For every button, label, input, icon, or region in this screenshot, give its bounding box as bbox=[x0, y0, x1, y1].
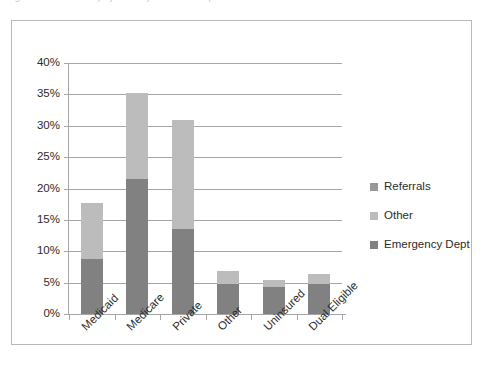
bar-segment bbox=[172, 120, 194, 229]
plot-area: 0%5%10%15%20%25%30%35%40% MedicaidMedica… bbox=[69, 63, 342, 314]
x-axis-tick bbox=[115, 314, 116, 320]
gridline bbox=[69, 157, 342, 158]
bar-segment bbox=[263, 280, 285, 287]
y-axis-tick bbox=[64, 251, 69, 252]
gridline bbox=[69, 220, 342, 221]
chart-legend: ReferralsOtherEmergency Dept bbox=[370, 181, 484, 268]
y-axis-tick bbox=[64, 220, 69, 221]
y-axis-label: 30% bbox=[37, 120, 60, 132]
gridline bbox=[69, 94, 342, 95]
y-axis-label: 25% bbox=[37, 151, 60, 163]
legend-item[interactable]: Other bbox=[370, 210, 484, 222]
x-axis-tick bbox=[342, 314, 343, 320]
x-axis-tick bbox=[297, 314, 298, 320]
y-axis-tick bbox=[64, 189, 69, 190]
legend-label: Referrals bbox=[384, 181, 431, 193]
y-axis-label: 40% bbox=[37, 57, 60, 69]
bar-segment bbox=[217, 271, 239, 284]
y-axis-tick bbox=[64, 63, 69, 64]
legend-item[interactable]: Referrals bbox=[370, 181, 484, 193]
figure-caption-strip: Figure 1. Source of payment by source of… bbox=[0, 0, 484, 11]
y-axis-label: 20% bbox=[37, 183, 60, 195]
legend-swatch-icon bbox=[370, 183, 378, 191]
bar-segment bbox=[126, 93, 148, 180]
y-axis-label: 10% bbox=[37, 246, 60, 258]
legend-swatch-icon bbox=[370, 241, 378, 249]
bar-segment bbox=[126, 179, 148, 314]
gridline bbox=[69, 63, 342, 64]
y-axis-label: 15% bbox=[37, 214, 60, 226]
legend-item[interactable]: Emergency Dept bbox=[370, 239, 484, 251]
gridline bbox=[69, 251, 342, 252]
y-axis-tick bbox=[64, 126, 69, 127]
y-axis-label: 35% bbox=[37, 89, 60, 101]
gridline bbox=[69, 283, 342, 284]
gridline bbox=[69, 189, 342, 190]
bar-segment bbox=[81, 203, 103, 259]
chart-frame: 0%5%10%15%20%25%30%35%40% MedicaidMedica… bbox=[11, 20, 472, 345]
legend-label: Other bbox=[384, 210, 413, 222]
y-axis-tick bbox=[64, 283, 69, 284]
legend-swatch-icon bbox=[370, 212, 378, 220]
y-axis-tick bbox=[64, 94, 69, 95]
y-axis-label: 0% bbox=[43, 308, 60, 320]
x-axis-tick bbox=[160, 314, 161, 320]
legend-label: Emergency Dept bbox=[384, 239, 470, 251]
x-axis-tick bbox=[206, 314, 207, 320]
bar-segment bbox=[308, 274, 330, 284]
bar-segment bbox=[172, 229, 194, 314]
figure-caption: Figure 1. Source of payment by source of… bbox=[6, 0, 290, 2]
y-axis-tick bbox=[64, 157, 69, 158]
y-axis-label: 5% bbox=[43, 277, 60, 289]
x-axis-tick bbox=[69, 314, 70, 320]
x-axis-tick bbox=[251, 314, 252, 320]
gridline bbox=[69, 126, 342, 127]
